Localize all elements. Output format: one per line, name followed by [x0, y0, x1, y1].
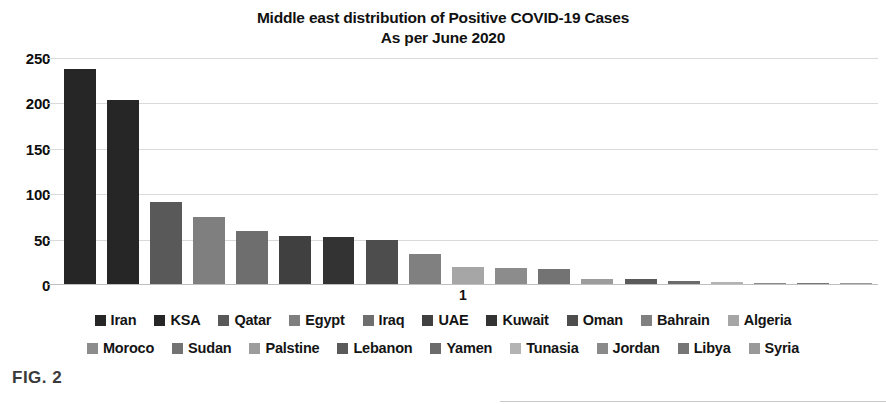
bar-sudan — [538, 269, 570, 284]
legend-swatch-icon — [486, 315, 497, 326]
bar-slot — [446, 58, 489, 284]
legend-item-uae[interactable]: UAE — [422, 312, 468, 328]
bar-egypt — [193, 217, 225, 284]
legend-item-qatar[interactable]: Qatar — [218, 312, 271, 328]
legend-swatch-icon — [641, 315, 652, 326]
y-axis-tick-label: 0 — [4, 277, 50, 294]
y-axis-tick-label: 200 — [4, 95, 50, 112]
legend-item-label: Bahrain — [657, 312, 710, 328]
bar-slot — [576, 58, 619, 284]
bar-ksa — [107, 100, 139, 284]
legend-swatch-icon — [172, 343, 183, 354]
legend-item-label: Kuwait — [502, 312, 548, 328]
legend-item-iraq[interactable]: Iraq — [363, 312, 405, 328]
legend-swatch-icon — [678, 343, 689, 354]
legend-swatch-icon — [728, 315, 739, 326]
legend-item-bahrain[interactable]: Bahrain — [641, 312, 710, 328]
legend-item-jordan[interactable]: Jordan — [597, 340, 660, 356]
bar-slot — [360, 58, 403, 284]
legend-item-algeria[interactable]: Algeria — [728, 312, 792, 328]
bar-iraq — [236, 231, 268, 284]
bar-slot — [101, 58, 144, 284]
legend-item-label: Sudan — [188, 340, 231, 356]
legend-swatch-icon — [337, 343, 348, 354]
legend-item-tunasia[interactable]: Tunasia — [510, 340, 578, 356]
legend-item-iran[interactable]: Iran — [95, 312, 137, 328]
bar-slot — [533, 58, 576, 284]
bar-qatar — [150, 202, 182, 284]
legend-item-label: Iran — [111, 312, 137, 328]
legend-item-ksa[interactable]: KSA — [154, 312, 200, 328]
legend-item-oman[interactable]: Oman — [567, 312, 623, 328]
legend-item-label: UAE — [438, 312, 468, 328]
legend-item-libya[interactable]: Libya — [678, 340, 731, 356]
bar-slot — [705, 58, 748, 284]
legend-item-sudan[interactable]: Sudan — [172, 340, 231, 356]
y-axis-tick-label: 50 — [4, 231, 50, 248]
bar-slot — [231, 58, 274, 284]
bar-slot — [403, 58, 446, 284]
legend-item-label: Iraq — [379, 312, 405, 328]
y-axis: 050100150200250 — [0, 58, 50, 306]
legend-item-label: Egypt — [305, 312, 344, 328]
axis-baseline — [48, 284, 878, 285]
legend-item-label: Oman — [583, 312, 623, 328]
chart-title: Middle east distribution of Positive COV… — [0, 0, 886, 48]
bar-slot — [187, 58, 230, 284]
legend-item-moroco[interactable]: Moroco — [87, 340, 154, 356]
legend-item-label: Libya — [694, 340, 731, 356]
chart-subtitle: As per June 2020 — [0, 28, 886, 48]
legend-item-label: Syria — [765, 340, 799, 356]
chart-title-line-1: Middle east distribution of Positive COV… — [257, 9, 629, 26]
legend-swatch-icon — [363, 315, 374, 326]
bar-oman — [366, 240, 398, 284]
bar-series — [58, 58, 878, 284]
bar-algeria — [452, 267, 484, 284]
legend-swatch-icon — [510, 343, 521, 354]
legend-swatch-icon — [154, 315, 165, 326]
bar-slot — [749, 58, 792, 284]
plot-region: 050100150200250 1 — [0, 58, 886, 306]
legend-item-label: KSA — [170, 312, 200, 328]
bar-slot — [619, 58, 662, 284]
legend-swatch-icon — [749, 343, 760, 354]
legend-swatch-icon — [289, 315, 300, 326]
legend-item-palstine[interactable]: Palstine — [249, 340, 319, 356]
x-axis-label: 1 — [58, 287, 878, 303]
bar-bahrain — [409, 254, 441, 284]
legend-item-egypt[interactable]: Egypt — [289, 312, 344, 328]
bar-slot — [58, 58, 101, 284]
legend-item-label: Jordan — [613, 340, 660, 356]
legend-swatch-icon — [249, 343, 260, 354]
legend-swatch-icon — [567, 315, 578, 326]
legend-row-1: IranKSAQatarEgyptIraqUAEKuwaitOmanBahrai… — [0, 306, 886, 334]
bar-slot — [317, 58, 360, 284]
bar-slot — [490, 58, 533, 284]
legend-item-lebanon[interactable]: Lebanon — [337, 340, 412, 356]
legend-item-syria[interactable]: Syria — [749, 340, 799, 356]
legend-swatch-icon — [218, 315, 229, 326]
y-axis-tick-label: 100 — [4, 186, 50, 203]
legend-item-label: Moroco — [103, 340, 154, 356]
legend-swatch-icon — [422, 315, 433, 326]
bar-kuwait — [323, 237, 355, 284]
bar-slot — [835, 58, 878, 284]
bar-moroco — [495, 268, 527, 284]
legend-item-label: Yamen — [446, 340, 492, 356]
y-axis-tick-label: 250 — [4, 50, 50, 67]
legend-row-2: MorocoSudanPalstineLebanonYamenTunasiaJo… — [0, 334, 886, 362]
chart-legend: IranKSAQatarEgyptIraqUAEKuwaitOmanBahrai… — [0, 306, 886, 362]
legend-item-yamen[interactable]: Yamen — [430, 340, 492, 356]
legend-item-kuwait[interactable]: Kuwait — [486, 312, 548, 328]
plot-area — [58, 58, 878, 285]
bar-iran — [64, 69, 96, 284]
bar-slot — [274, 58, 317, 284]
legend-swatch-icon — [597, 343, 608, 354]
legend-item-label: Qatar — [234, 312, 271, 328]
legend-item-label: Lebanon — [353, 340, 412, 356]
bar-uae — [279, 236, 311, 284]
bar-slot — [662, 58, 705, 284]
legend-swatch-icon — [430, 343, 441, 354]
legend-swatch-icon — [87, 343, 98, 354]
bar-slot — [792, 58, 835, 284]
